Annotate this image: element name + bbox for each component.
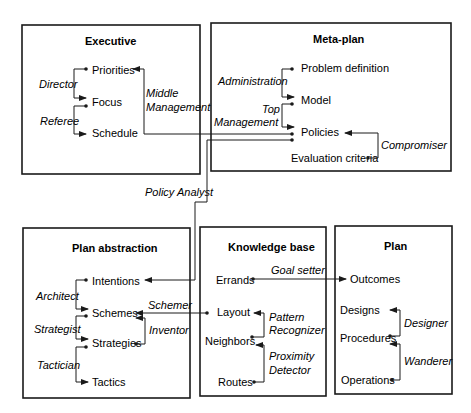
- role-top-line1: Top: [262, 103, 280, 115]
- schemer-link: [136, 311, 209, 315]
- node-schedule: Schedule: [92, 127, 138, 139]
- node-operations: Operations: [341, 374, 395, 386]
- node-designs: Designs: [340, 304, 380, 316]
- role-middle-line2: Management: [146, 101, 211, 113]
- node-priorities: Priorities: [92, 64, 135, 76]
- node-policies: Policies: [301, 126, 339, 138]
- node-layout: Layout: [217, 306, 250, 318]
- goal-setter-link: [251, 277, 346, 281]
- node-intentions: Intentions: [92, 275, 140, 287]
- node-procedures: Procedures: [340, 332, 397, 344]
- role-director: Director: [39, 78, 79, 90]
- node-focus: Focus: [92, 96, 122, 108]
- diagram-canvas: Executive Priorities Focus Schedule Dire…: [0, 0, 471, 413]
- role-pattern-line1: Pattern: [269, 311, 304, 323]
- role-inventor: Inventor: [149, 324, 190, 336]
- knowledge-base-title: Knowledge base: [228, 241, 315, 253]
- role-middle-line1: Middle: [146, 87, 178, 99]
- role-referee: Referee: [40, 115, 79, 127]
- policy-analyst-link: [145, 138, 294, 280]
- role-administration: Administration: [217, 75, 288, 87]
- node-outcomes: Outcomes: [350, 273, 401, 285]
- node-errands: Errands: [216, 274, 255, 286]
- role-architect: Architect: [35, 290, 80, 302]
- role-proximity-line1: Proximity: [269, 350, 316, 362]
- top-management-connector: [282, 102, 294, 127]
- node-neighbors: Neighbors: [205, 335, 256, 347]
- role-top-line2: Management: [214, 116, 279, 128]
- plan-title: Plan: [384, 240, 408, 252]
- proximity-detector-connector: [252, 345, 264, 384]
- node-model: Model: [301, 94, 331, 106]
- role-schemer: Schemer: [148, 299, 193, 311]
- role-proximity-line2: Detector: [269, 364, 312, 376]
- role-pattern-line2: Recognizer: [269, 324, 326, 336]
- node-schemes: Schemes: [92, 307, 138, 319]
- executive-title: Executive: [85, 35, 136, 47]
- role-policy-analyst: Policy Analyst: [145, 186, 214, 198]
- plan-abstraction-title: Plan abstraction: [72, 242, 158, 254]
- node-evaluation-criteria: Evaluation criteria: [291, 152, 379, 164]
- role-wanderer: Wanderer: [404, 355, 453, 367]
- role-compromiser: Compromiser: [381, 139, 448, 151]
- role-designer: Designer: [404, 317, 449, 329]
- role-strategist: Strategist: [34, 323, 81, 335]
- node-routes: Routes: [218, 376, 253, 388]
- role-goal-setter: Goal setter: [271, 264, 326, 276]
- node-problem-definition: Problem definition: [301, 62, 389, 74]
- node-tactics: Tactics: [92, 376, 126, 388]
- role-tactician: Tactician: [37, 359, 80, 371]
- meta-plan-title: Meta-plan: [313, 33, 365, 45]
